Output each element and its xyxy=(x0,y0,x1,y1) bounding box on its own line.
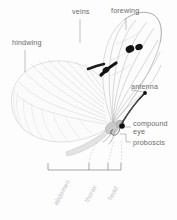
label-forewing: forewing xyxy=(111,7,139,15)
hindwing-shape xyxy=(11,61,112,142)
compound-eye-marker xyxy=(119,123,125,129)
label-compound-eye-line2: eye xyxy=(133,128,145,136)
label-hindwing: hindwing xyxy=(12,39,42,47)
label-veins: veins xyxy=(72,8,90,16)
hindwing-dark-mark xyxy=(88,64,104,69)
body-segment-bracket xyxy=(48,163,121,170)
label-antenna: antenna xyxy=(131,83,158,91)
label-proboscis: proboscis xyxy=(133,139,165,147)
